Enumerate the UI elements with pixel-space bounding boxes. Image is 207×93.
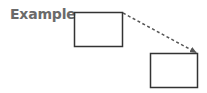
- dashed-arrow-connector: [123, 13, 196, 53]
- diagram-canvas: [0, 0, 207, 93]
- target-box[interactable]: [151, 54, 198, 88]
- source-box[interactable]: [75, 13, 123, 47]
